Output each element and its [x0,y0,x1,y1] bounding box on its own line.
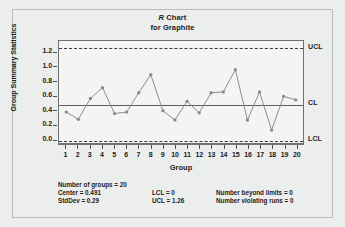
footer-violating-runs: Number violating runs = 0 [216,197,294,205]
x-tick-mark [248,145,249,149]
footer-column-limits: LCL = 0 UCL = 1.26 [152,189,184,205]
x-tick-mark [126,145,127,149]
data-point [294,98,297,101]
x-tick-mark [90,145,91,149]
limit-label-lcl: LCL [308,135,322,142]
y-tick-label: 1.0 [22,62,52,69]
x-tick-mark [175,145,176,149]
y-tick-mark [53,125,57,126]
y-tick-label: 0.6 [22,91,52,98]
x-tick-mark [138,145,139,149]
x-tick-mark [102,145,103,149]
data-point [173,118,176,121]
data-point [137,91,140,94]
chart-figure: R Chart for Graphite 0.00.20.40.60.81.01… [0,0,345,227]
data-point [234,68,237,71]
data-point [197,111,200,114]
x-tick-mark [65,145,66,149]
y-tick-mark [53,96,57,97]
data-point [125,110,128,113]
x-tick-mark [211,145,212,149]
data-point [65,110,68,113]
plot-area [58,40,304,144]
data-point [246,118,249,121]
x-axis-title: Group [58,163,304,172]
x-tick-mark [77,145,78,149]
x-tick-mark [260,145,261,149]
y-tick-mark [53,52,57,53]
chart-footer-stats: Number of groups = 20 Center = 0.491 Std… [0,181,345,211]
y-tick-label: 1.2 [22,47,52,54]
y-tick-mark [53,140,57,141]
x-tick-mark [297,145,298,149]
footer-center: Center = 0.491 [58,189,127,197]
y-tick-label: 0.0 [22,135,52,142]
control-chart-series [59,41,303,143]
data-point [77,118,80,121]
x-tick-mark [187,145,188,149]
x-tick-mark [114,145,115,149]
x-tick-mark [224,145,225,149]
x-tick-mark [272,145,273,149]
data-point [161,109,164,112]
data-point [270,128,273,131]
data-point [210,91,213,94]
chart-title-rest: Chart [164,13,186,22]
data-point [258,90,261,93]
data-point [185,100,188,103]
y-tick-mark [53,66,57,67]
x-tick-mark [199,145,200,149]
y-tick-label: 0.2 [22,120,52,127]
x-tick-mark [285,145,286,149]
footer-column-summary: Number of groups = 20 Center = 0.491 Std… [58,181,127,204]
data-point [89,97,92,100]
x-tick-mark [163,145,164,149]
footer-number-of-groups: Number of groups = 20 [58,181,127,189]
y-tick-mark [53,81,57,82]
y-tick-label: 0.8 [22,77,52,84]
data-point [101,86,104,89]
y-tick-label: 0.4 [22,106,52,113]
x-tick-label: 20 [289,151,305,158]
x-axis [58,144,304,145]
x-tick-mark [236,145,237,149]
y-axis-title: Group Summary Statistics [10,8,17,128]
limit-label-ucl: UCL [308,43,323,50]
footer-lcl: LCL = 0 [152,189,184,197]
footer-column-violations: Number beyond limits = 0 Number violatin… [216,189,294,205]
footer-ucl: UCL = 1.26 [152,197,184,205]
data-point [113,112,116,115]
x-tick-mark [151,145,152,149]
y-tick-mark [53,110,57,111]
footer-beyond-limits: Number beyond limits = 0 [216,189,294,197]
limit-label-cl: CL [308,99,318,106]
data-point [282,95,285,98]
y-axis [58,40,59,144]
data-point [222,90,225,93]
footer-stddev: StdDev = 0.29 [58,197,127,205]
series-line [66,70,295,130]
data-point [149,73,152,76]
